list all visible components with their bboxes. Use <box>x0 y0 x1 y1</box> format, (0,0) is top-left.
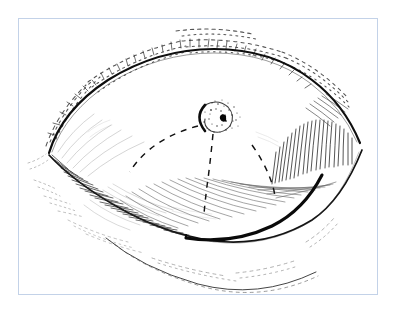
cheek-fold-texture <box>152 218 338 281</box>
medial-canthus-hatching <box>52 155 189 235</box>
lateral-canthus-hatching <box>272 120 352 184</box>
upper-lid-lash-ticks <box>48 39 311 135</box>
globe-soft-shading <box>88 120 280 219</box>
lesion <box>200 100 241 133</box>
eye-illustration-canvas: Eyelid lesion surgical planning diagram <box>0 0 397 310</box>
lesion-crescent <box>200 105 206 131</box>
lesion-outline <box>205 102 233 132</box>
medial-canthus-texture <box>28 154 84 217</box>
upper-lid-surface-hatching <box>58 114 144 176</box>
lesion-punctum-core <box>222 115 226 119</box>
dashed-excision-line-medial <box>130 126 198 172</box>
upper-lid-margin <box>49 49 360 153</box>
lower-lid-under-texture <box>68 220 144 253</box>
bold-incision-arc <box>186 175 322 240</box>
lower-lid-light-hatching <box>84 184 173 230</box>
figure-page: Eyelid lesion surgical planning diagram <box>0 0 397 310</box>
cheek-fold <box>106 238 318 292</box>
